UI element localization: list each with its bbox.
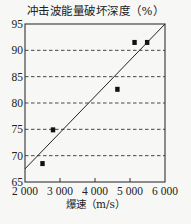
- y-tick-label: 95: [12, 18, 24, 30]
- data-point: [40, 161, 44, 166]
- x-axis-label: 爆速（m/s）: [0, 196, 191, 211]
- data-point: [132, 40, 136, 45]
- scatter-plot: 657075808590952 0003 0004 0005 0006 000: [0, 0, 191, 224]
- grid-lines: [25, 50, 165, 155]
- axis-ticks: 657075808590952 0003 0004 0005 0006 000: [12, 18, 179, 197]
- y-tick-label: 80: [12, 97, 24, 109]
- data-series: [25, 24, 165, 169]
- fit-line: [25, 24, 165, 169]
- y-tick-label: 70: [12, 150, 24, 162]
- data-point: [51, 127, 55, 132]
- y-tick-label: 90: [12, 44, 24, 56]
- data-point: [115, 87, 119, 92]
- y-tick-label: 85: [12, 71, 24, 83]
- y-tick-label: 75: [12, 123, 24, 135]
